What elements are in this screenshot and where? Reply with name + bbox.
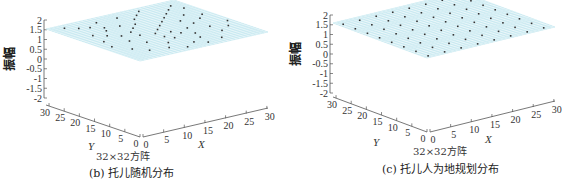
marker-point [461, 17, 463, 19]
marker-point [194, 32, 196, 34]
marker-point [116, 17, 118, 19]
marker-point [136, 15, 138, 17]
y-tick-label: 15 [373, 116, 383, 127]
x-axis-label: X [484, 133, 493, 145]
marker-point [155, 33, 157, 35]
marker-point [174, 37, 176, 39]
marker-point [227, 20, 229, 22]
marker-point [400, 24, 402, 26]
marker-point [420, 42, 422, 44]
marker-point [391, 42, 393, 44]
marker-point [433, 16, 435, 18]
marker-point [428, 25, 430, 27]
z-tick-label: -2 [320, 88, 328, 99]
x-tick-label: 20 [511, 114, 521, 125]
y-tick-label: 20 [357, 110, 367, 121]
marker-point [157, 29, 159, 31]
marker-point [519, 18, 521, 20]
marker-point [228, 25, 230, 27]
marker-point [510, 35, 512, 37]
marker-point [526, 31, 528, 33]
x-tick-label: 30 [552, 104, 562, 115]
marker-point [383, 28, 385, 30]
marker-point [164, 36, 166, 38]
marker-point [355, 28, 357, 30]
marker-point [163, 17, 165, 19]
marker-point [149, 49, 151, 51]
marker-point [359, 19, 361, 21]
marker-point [460, 47, 462, 49]
marker-point [493, 39, 495, 41]
marker-point [421, 12, 423, 14]
marker-point [465, 39, 467, 41]
marker-point [199, 17, 201, 19]
y-tick-label: 15 [86, 123, 96, 134]
marker-point [392, 11, 394, 13]
marker-point [121, 35, 123, 37]
x-tick-label: 15 [203, 125, 213, 136]
marker-point [106, 30, 108, 32]
matrix-label-c: 32×32方阵 [413, 143, 467, 158]
marker-point [186, 27, 188, 29]
x-axis-label: X [197, 138, 206, 150]
marker-point [64, 27, 66, 29]
marker-point [161, 21, 163, 23]
marker-point [379, 37, 381, 39]
marker-point [209, 25, 211, 27]
marker-point [139, 34, 141, 36]
marker-point [104, 27, 106, 29]
marker-point [482, 4, 484, 6]
marker-point [96, 22, 98, 24]
y-axis-label: Y [88, 140, 96, 152]
marker-point [408, 7, 410, 9]
x-tick-label: 25 [531, 109, 541, 120]
marker-point [166, 13, 168, 15]
x-tick-label: 5 [164, 134, 169, 145]
marker-point [131, 48, 133, 50]
caption-c: (c) 托儿人为地规划分布 [382, 160, 499, 176]
matrix-label-b: 32×32方阵 [96, 148, 150, 163]
marker-point [187, 46, 189, 48]
y-tick-label: 25 [342, 105, 352, 116]
marker-point [221, 37, 223, 39]
chart-panel-b: 21.510.50-0.5-1-1.5-2振幅05101520253005101… [0, 0, 287, 189]
marker-point [371, 24, 373, 26]
marker-point [466, 8, 468, 10]
marker-point [494, 9, 496, 11]
y-tick-label: 5 [118, 133, 123, 144]
marker-point [395, 33, 397, 35]
marker-point [440, 30, 442, 32]
x-tick-label: 15 [490, 119, 500, 130]
marker-point [425, 3, 427, 5]
marker-point [498, 31, 500, 33]
marker-point [437, 8, 439, 10]
marker-point [473, 22, 475, 24]
y-tick-label: 30 [40, 107, 50, 118]
marker-point [404, 16, 406, 18]
y-tick-label: 25 [55, 112, 65, 123]
marker-point [342, 23, 344, 25]
marker-point [444, 51, 446, 53]
marker-point [193, 22, 195, 24]
marker-point [119, 25, 121, 27]
y-tick-label: 10 [388, 122, 398, 133]
marker-point [403, 46, 405, 48]
marker-point [92, 35, 94, 37]
marker-point [478, 13, 480, 15]
marker-point [477, 43, 479, 45]
marker-point [454, 4, 456, 6]
marker-point [129, 40, 131, 42]
marker-point [424, 34, 426, 36]
marker-point [146, 41, 148, 43]
x-tick-label: 10 [182, 130, 192, 141]
marker-point [486, 26, 488, 28]
marker-point [412, 29, 414, 31]
marker-point [457, 26, 459, 28]
marker-point [448, 43, 450, 45]
marker-point [507, 14, 509, 16]
x-tick-label: 25 [244, 116, 254, 127]
marker-point [207, 41, 209, 43]
marker-point [514, 27, 516, 29]
x-tick-label: 10 [469, 124, 479, 135]
marker-point [130, 31, 132, 33]
